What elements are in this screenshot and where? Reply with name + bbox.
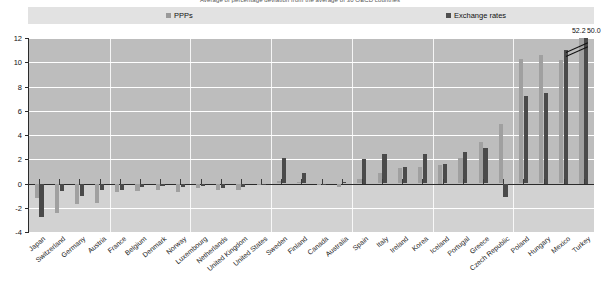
- y-axis-tick-label: 4: [0, 131, 22, 140]
- bar-ppps: [337, 184, 341, 188]
- bar-exchange-rates: [241, 184, 245, 188]
- y-axis-tick-label: 8: [0, 83, 22, 92]
- bar-ppps: [257, 184, 261, 185]
- y-axis-tick: [25, 135, 29, 136]
- x-axis-tick: [59, 179, 60, 184]
- x-axis-tick: [382, 179, 383, 184]
- legend-swatch-exchange-rates: [446, 13, 451, 18]
- bar-ppps: [156, 184, 160, 190]
- bar-exchange-rates: [201, 184, 205, 186]
- x-axis-label: Sweden: [265, 235, 289, 257]
- x-axis-tick: [160, 179, 161, 184]
- x-axis-tick: [584, 179, 585, 184]
- x-axis-tick: [120, 179, 121, 184]
- x-axis-label: Austria: [86, 235, 107, 254]
- x-axis-tick: [201, 179, 202, 184]
- bar-ppps: [236, 184, 240, 190]
- legend-item-exchange-rates[interactable]: Exchange rates: [446, 11, 506, 20]
- y-axis-tick: [25, 184, 29, 185]
- x-axis-tick: [523, 179, 524, 184]
- y-axis-tick-label: -2: [0, 204, 22, 213]
- bar-exchange-rates: [80, 184, 84, 196]
- y-axis-tick-label: 12: [0, 34, 22, 43]
- bar-ppps: [438, 165, 442, 183]
- y-axis-tick: [25, 208, 29, 209]
- bar-exchange-rates: [140, 184, 144, 188]
- x-axis-tick: [301, 179, 302, 184]
- legend-item-ppps[interactable]: PPPs: [166, 11, 193, 20]
- x-axis-tick: [100, 179, 101, 184]
- y-axis-tick: [25, 62, 29, 63]
- bar-exchange-rates: [584, 38, 588, 184]
- x-axis-tick: [402, 179, 403, 184]
- bar-ppps: [115, 184, 119, 192]
- bar-ppps: [95, 184, 99, 203]
- bar-exchange-rates: [60, 184, 64, 191]
- x-axis-tick: [180, 179, 181, 184]
- x-axis-tick: [261, 179, 262, 184]
- x-axis-tick: [79, 179, 80, 184]
- bar-exchange-rates: [302, 173, 306, 184]
- bar-ppps: [458, 158, 462, 183]
- x-axis-label: Hungary: [526, 235, 551, 257]
- x-axis-tick: [241, 179, 242, 184]
- x-axis-tick: [221, 179, 222, 184]
- y-axis-tick-label: 10: [0, 58, 22, 67]
- bar-ppps: [75, 184, 79, 205]
- zero-line: [29, 184, 594, 185]
- bar-exchange-rates: [282, 158, 286, 183]
- x-axis-tick: [503, 179, 504, 184]
- bar-ppps: [35, 184, 39, 199]
- y-axis-tick-label: 6: [0, 107, 22, 116]
- bar-ppps: [55, 184, 59, 213]
- overflow-value-label: 52.2: [572, 27, 586, 34]
- legend-label-exchange-rates: Exchange rates: [454, 11, 506, 20]
- bar-ppps: [479, 142, 483, 183]
- bar-ppps: [539, 55, 543, 184]
- bar-exchange-rates: [100, 184, 104, 190]
- x-axis-label: Turkey: [571, 235, 592, 254]
- x-axis-tick: [463, 179, 464, 184]
- y-axis-tick: [25, 111, 29, 112]
- x-axis-label: Finland: [287, 235, 309, 255]
- y-axis-tick: [25, 87, 29, 88]
- bar-ppps: [196, 184, 200, 189]
- bar-exchange-rates: [322, 184, 326, 185]
- bar-exchange-rates: [181, 184, 185, 188]
- x-axis-tick: [39, 179, 40, 184]
- bar-ppps: [216, 184, 220, 190]
- bar-exchange-rates: [503, 184, 507, 197]
- bar-exchange-rates: [120, 184, 124, 190]
- bar-exchange-rates: [423, 154, 427, 183]
- x-axis-tick: [281, 179, 282, 184]
- gridline-horizontal: [29, 135, 594, 136]
- x-axis-label: Italy: [375, 235, 389, 249]
- chart-title: Average of percentage deviation from the…: [0, 0, 600, 3]
- bar-ppps: [135, 184, 139, 191]
- bar-ppps: [176, 184, 180, 192]
- x-axis-tick: [322, 179, 323, 184]
- bar-exchange-rates: [382, 154, 386, 183]
- gridline-horizontal: [29, 38, 594, 39]
- bar-exchange-rates: [524, 96, 528, 183]
- x-axis-label: Korea: [411, 235, 430, 252]
- legend-label-ppps: PPPs: [174, 11, 193, 20]
- bar-exchange-rates: [160, 184, 164, 186]
- bar-ppps: [317, 184, 321, 185]
- bar-exchange-rates: [261, 184, 265, 185]
- y-axis-tick: [25, 38, 29, 39]
- overflow-value-label: 50.0: [587, 27, 601, 34]
- y-axis-tick: [25, 159, 29, 160]
- chart-legend: PPPs Exchange rates: [28, 7, 594, 24]
- bar-ppps: [579, 38, 583, 184]
- x-axis-label: Mexico: [550, 235, 571, 255]
- x-axis-tick: [443, 179, 444, 184]
- legend-swatch-ppps: [166, 13, 171, 18]
- bar-exchange-rates: [221, 184, 225, 189]
- bar-exchange-rates: [39, 184, 43, 218]
- bar-exchange-rates: [403, 167, 407, 184]
- x-axis-tick: [483, 179, 484, 184]
- bar-exchange-rates: [564, 50, 568, 183]
- x-axis-tick: [422, 179, 423, 184]
- bar-ppps: [499, 124, 503, 183]
